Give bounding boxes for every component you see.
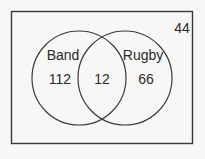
rugby-circle [78, 31, 172, 125]
band-only-count: 112 [49, 71, 72, 87]
band-label: Band [47, 47, 80, 63]
venn-diagram: 44 Band Rugby 112 12 66 [0, 0, 205, 159]
band-circle [32, 31, 126, 125]
rugby-label: Rugby [123, 47, 163, 63]
universe-count: 44 [174, 20, 190, 36]
rugby-only-count: 66 [138, 71, 154, 87]
intersection-count: 12 [94, 71, 110, 87]
